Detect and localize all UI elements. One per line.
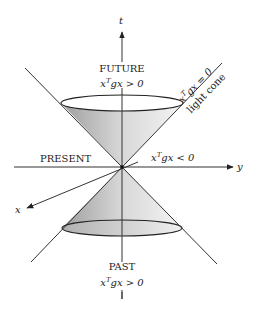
t-axis-label: t — [119, 15, 124, 26]
future-label: FUTURE — [99, 63, 144, 74]
present-condition: xTgx < 0 — [151, 151, 195, 163]
origin-point — [120, 165, 124, 169]
y-axis-label: y — [236, 161, 243, 172]
past-condition: xTgx > 0 — [100, 276, 144, 288]
light-cone-annotation: xTgx = 0 light cone — [175, 61, 228, 115]
past-label: PAST — [109, 261, 136, 272]
x-axis-label: x — [15, 204, 21, 215]
present-label: PRESENT — [40, 153, 91, 164]
light-cone-diagram: t y x FUTURE xTgx > 0 PRESENT xTgx < 0 P… — [0, 0, 255, 319]
